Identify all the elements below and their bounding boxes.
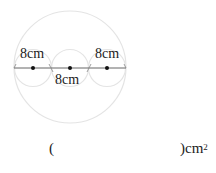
center-dot-right [105,66,109,70]
answer-open-paren: ( [49,140,54,156]
answer-unit: )cm2 [180,140,208,156]
label-right-diameter: 8cm [95,47,119,61]
answer-superscript: 2 [203,142,208,152]
center-dot-middle [68,66,72,70]
label-middle-diameter: 8cm [55,73,79,87]
answer-close-paren-unit: )cm [180,140,203,156]
center-dot-left [31,66,35,70]
label-left-diameter: 8cm [20,47,44,61]
